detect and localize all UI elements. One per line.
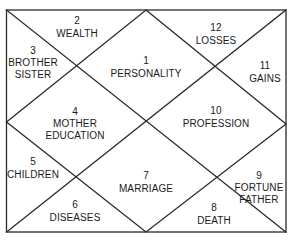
house-label: CHILDREN xyxy=(7,168,59,181)
house-label: MARRIAGE xyxy=(119,182,173,195)
house-number: 6 xyxy=(50,198,101,211)
house-label: FORTUNE xyxy=(235,182,284,194)
house-label: BROTHER xyxy=(8,57,58,69)
house-number: 8 xyxy=(197,201,231,214)
house-number: 10 xyxy=(183,104,250,117)
house-label: WEALTH xyxy=(56,27,98,40)
house-number: 4 xyxy=(45,105,104,118)
house-number: 12 xyxy=(196,21,237,34)
house-number: 2 xyxy=(56,14,98,27)
house-label-secondary: SISTER xyxy=(8,69,58,81)
house-label: DISEASES xyxy=(50,211,101,224)
house-1: 1 PERSONALITY xyxy=(110,54,181,80)
house-label-secondary: EDUCATION xyxy=(45,130,104,142)
house-6: 6 DISEASES xyxy=(50,198,101,224)
house-label: LOSSES xyxy=(196,34,237,47)
house-number: 9 xyxy=(235,169,284,182)
house-4: 4 MOTHER EDUCATION xyxy=(45,105,104,142)
house-number: 3 xyxy=(8,44,58,57)
house-12: 12 LOSSES xyxy=(196,21,237,47)
house-number: 5 xyxy=(7,155,59,168)
house-7: 7 MARRIAGE xyxy=(119,169,173,195)
house-9: 9 FORTUNE FATHER xyxy=(235,169,284,206)
house-11: 11 GAINS xyxy=(249,59,281,85)
house-2: 2 WEALTH xyxy=(56,14,98,40)
house-number: 1 xyxy=(110,54,181,67)
house-label: PERSONALITY xyxy=(110,67,181,80)
house-10: 10 PROFESSION xyxy=(183,104,250,130)
house-label-secondary: FATHER xyxy=(235,194,284,206)
house-8: 8 DEATH xyxy=(197,201,231,227)
house-5: 5 CHILDREN xyxy=(7,155,59,181)
house-label: DEATH xyxy=(197,214,231,227)
house-3: 3 BROTHER SISTER xyxy=(8,44,58,81)
house-label: PROFESSION xyxy=(183,117,250,130)
house-label: MOTHER xyxy=(45,118,104,130)
house-label: GAINS xyxy=(249,72,281,85)
house-number: 7 xyxy=(119,169,173,182)
house-number: 11 xyxy=(249,59,281,72)
